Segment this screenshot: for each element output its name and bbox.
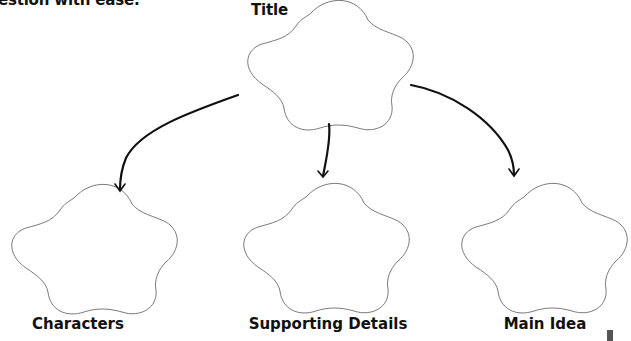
arrow-to-supporting-details [318, 124, 329, 177]
cloud-supporting-details [244, 183, 410, 313]
corner-mark [607, 330, 613, 341]
main-idea-label: Main Idea [490, 315, 600, 333]
arrow-to-characters [115, 95, 238, 191]
intro-text: estion with ease. [0, 0, 139, 9]
diagram-canvas [0, 0, 631, 341]
arrow-to-main-idea [411, 85, 519, 176]
supporting-details-label: Supporting Details [238, 315, 418, 333]
cloud-main-idea [462, 183, 628, 313]
characters-label: Characters [20, 315, 136, 333]
title-label: Title [251, 1, 288, 19]
cloud-characters [12, 184, 178, 314]
cloud-title [248, 0, 414, 130]
